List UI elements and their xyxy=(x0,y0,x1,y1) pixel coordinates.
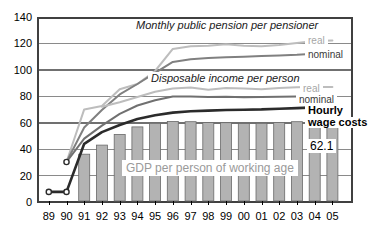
xtick-mark-92 xyxy=(102,201,103,205)
income-real-label: real xyxy=(300,83,323,94)
pension-real-label: real xyxy=(305,35,328,46)
gridline-40 xyxy=(39,149,351,150)
xtick-mark-94 xyxy=(137,201,138,205)
hourly-wage-label-line1: Hourly xyxy=(305,105,346,116)
gridline-100 xyxy=(39,69,351,71)
xtick-mark-03 xyxy=(297,201,298,205)
xtick-mark-98 xyxy=(208,201,209,205)
ytick-label-40: 40 xyxy=(2,143,32,155)
xtick-mark-96 xyxy=(173,201,174,205)
final-value-label: 62.1 xyxy=(307,139,336,153)
xtick-mark-99 xyxy=(226,201,227,205)
xtick-mark-91 xyxy=(84,201,85,205)
hourly-wage-label-line2: wage costs xyxy=(305,117,370,128)
pension-nominal-label: nominal xyxy=(305,49,346,60)
xtick-mark-97 xyxy=(191,201,192,205)
xtick-mark-93 xyxy=(120,201,121,205)
ytick-label-20: 20 xyxy=(2,170,32,182)
ytick-label-60: 60 xyxy=(2,117,32,129)
ytick-label-80: 80 xyxy=(2,90,32,102)
xtick-mark-01 xyxy=(262,201,263,205)
ytick-label-140: 140 xyxy=(2,11,32,23)
ytick-label-120: 120 xyxy=(2,37,32,49)
xtick-mark-95 xyxy=(155,201,156,205)
ytick-label-100: 100 xyxy=(2,64,32,76)
gdp-label: GDP per person of working age xyxy=(122,160,298,176)
ytick-label-0: 0 xyxy=(2,196,32,208)
xtick-mark-89 xyxy=(49,201,50,205)
xtick-label-05: 05 xyxy=(321,210,343,222)
income-title: Disposable income per person xyxy=(148,72,303,84)
chart-container: 140 120 100 80 60 40 20 0 Monthly public… xyxy=(0,0,391,243)
pension-title: Monthly public pension per pensioner xyxy=(133,19,321,31)
xtick-mark-00 xyxy=(244,201,245,205)
xtick-mark-02 xyxy=(279,201,280,205)
xtick-mark-04 xyxy=(315,201,316,205)
xtick-mark-90 xyxy=(67,201,68,205)
xtick-mark-05 xyxy=(332,201,333,205)
